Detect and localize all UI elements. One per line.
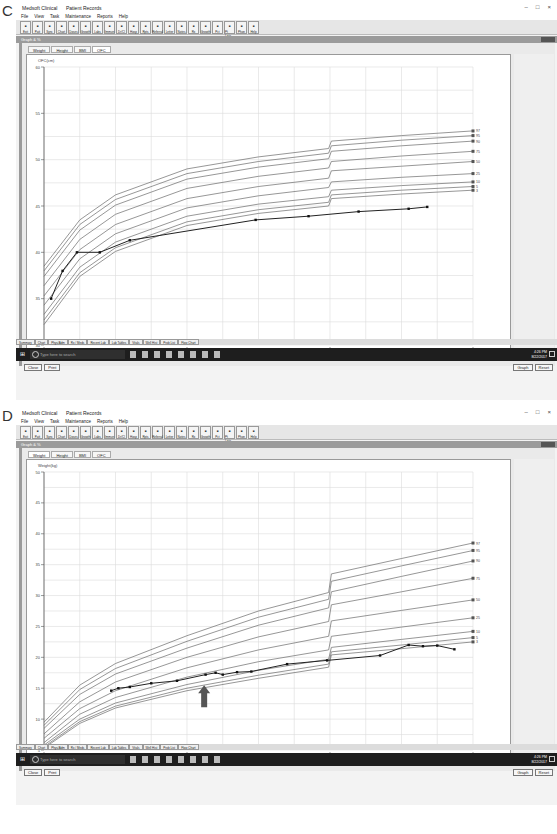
taskbar-search[interactable]: Type here to search bbox=[30, 350, 125, 359]
window-controls-icon[interactable] bbox=[541, 37, 555, 42]
button-reset[interactable]: Reset bbox=[535, 769, 553, 776]
tab-weight[interactable]: Weight bbox=[28, 46, 50, 53]
patient-data-point[interactable] bbox=[379, 654, 381, 656]
record-tab-vitals[interactable]: Vitals bbox=[129, 339, 142, 345]
maximize-icon[interactable]: □ bbox=[536, 409, 540, 415]
app-icon[interactable] bbox=[202, 756, 208, 763]
patient-data-point[interactable] bbox=[214, 672, 216, 674]
toolbar-button-labs[interactable]: ▪Labs bbox=[92, 21, 103, 34]
patient-data-point[interactable] bbox=[407, 208, 409, 210]
tab-ofc[interactable]: OFC bbox=[92, 46, 110, 53]
taskbar-search[interactable]: Type here to search bbox=[30, 755, 125, 764]
toolbar-button-phon[interactable]: ▪Phon bbox=[236, 426, 247, 439]
toolbar-button-pct[interactable]: ▪Pct bbox=[212, 21, 223, 34]
notifications-icon[interactable] bbox=[549, 351, 555, 357]
menu-item-task[interactable]: Task bbox=[50, 419, 59, 424]
toolbar-button-help[interactable]: ▪Help bbox=[248, 21, 259, 34]
app-icon[interactable] bbox=[202, 351, 208, 358]
menu-item-file[interactable]: File bbox=[21, 419, 28, 424]
toolbar-button-patt[interactable]: ▪Patt bbox=[32, 426, 43, 439]
toolbar-button-pct[interactable]: ▪Pct bbox=[212, 426, 223, 439]
menu-item-view[interactable]: View bbox=[34, 419, 44, 424]
record-tab-phys-adm[interactable]: Phys/Adm bbox=[48, 339, 68, 345]
record-tab-chart[interactable]: Chart bbox=[35, 339, 48, 345]
button-close[interactable]: Close bbox=[24, 769, 42, 776]
record-tab-recent-lab[interactable]: Recent Lab bbox=[87, 339, 108, 345]
patient-data-point[interactable] bbox=[236, 671, 238, 673]
store-icon[interactable] bbox=[166, 351, 172, 358]
patient-data-point[interactable] bbox=[357, 210, 359, 212]
toolbar-button-rx[interactable]: ▪Rx bbox=[188, 426, 199, 439]
close-icon[interactable]: × bbox=[547, 4, 551, 10]
record-tab-phys-adm[interactable]: Phys/Adm bbox=[48, 744, 68, 750]
record-tab-prob-list[interactable]: Prob List bbox=[160, 339, 178, 345]
patient-data-point[interactable] bbox=[99, 251, 101, 253]
record-tab-summary[interactable]: Summary bbox=[16, 744, 35, 750]
patient-data-point[interactable] bbox=[204, 673, 206, 675]
minimize-icon[interactable]: – bbox=[525, 409, 528, 415]
app-icon[interactable] bbox=[214, 351, 220, 358]
app-icon[interactable] bbox=[214, 756, 220, 763]
record-tab-flow-chart[interactable]: Flow Chart bbox=[178, 339, 199, 345]
patient-data-point[interactable] bbox=[250, 670, 252, 672]
record-tab-summary[interactable]: Summary bbox=[16, 339, 35, 345]
record-tab-well-hist[interactable]: Well Hist bbox=[143, 744, 161, 750]
button-reset[interactable]: Reset bbox=[535, 364, 553, 371]
file-explorer-icon[interactable] bbox=[142, 351, 148, 358]
patient-data-point[interactable] bbox=[222, 673, 224, 675]
toolbar-button-chart[interactable]: ▪Chart bbox=[56, 21, 67, 34]
toolbar-button-dr-cl[interactable]: ▪Dr/Cl bbox=[116, 426, 127, 439]
tab-height[interactable]: Height bbox=[51, 451, 73, 458]
toolbar-button-exit[interactable]: ▪Exit bbox=[20, 426, 31, 439]
file-explorer-icon[interactable] bbox=[142, 756, 148, 763]
toolbar-button-sync[interactable]: ▪Sync bbox=[44, 21, 55, 34]
mail-icon[interactable] bbox=[178, 756, 184, 763]
mail-icon[interactable] bbox=[178, 351, 184, 358]
maximize-icon[interactable]: □ bbox=[536, 4, 540, 10]
toolbar-button-exit[interactable]: ▪Exit bbox=[20, 21, 31, 34]
toolbar-button-patt[interactable]: ▪Patt bbox=[32, 21, 43, 34]
menu-item-reports[interactable]: Reports bbox=[97, 14, 113, 19]
toolbar-button-rx[interactable]: ▪Rx bbox=[188, 21, 199, 34]
toolbar-button-hosp[interactable]: ▪Hosp bbox=[128, 426, 139, 439]
record-tab-lab-tables[interactable]: Lab Tables bbox=[109, 339, 129, 345]
record-tab-flow-chart[interactable]: Flow Chart bbox=[178, 744, 199, 750]
patient-data-point[interactable] bbox=[326, 659, 328, 661]
menu-item-help[interactable]: Help bbox=[119, 14, 128, 19]
patient-data-point[interactable] bbox=[307, 215, 309, 217]
patient-data-point[interactable] bbox=[129, 686, 131, 688]
toolbar-button-immun[interactable]: ▪Immun bbox=[104, 426, 115, 439]
patient-data-point[interactable] bbox=[254, 219, 256, 221]
app-icon[interactable] bbox=[190, 351, 196, 358]
minimize-icon[interactable]: – bbox=[525, 4, 528, 10]
windows-start-icon[interactable]: ⊞ bbox=[20, 756, 26, 762]
system-clock[interactable]: 4:26 PM 8/22/2017 bbox=[531, 350, 547, 359]
toolbar-button-referral[interactable]: ▪Referral bbox=[152, 426, 163, 439]
button-print[interactable]: Print bbox=[44, 769, 60, 776]
menu-item-reports[interactable]: Reports bbox=[97, 419, 113, 424]
toolbar-button-growth[interactable]: ▪Growth bbox=[200, 426, 211, 439]
toolbar-button-letter[interactable]: ▪Letter bbox=[164, 21, 175, 34]
window-controls-icon[interactable] bbox=[541, 442, 555, 447]
toolbar-button-growth[interactable]: ▪Growth bbox=[200, 21, 211, 34]
patient-data-point[interactable] bbox=[129, 239, 131, 241]
tab-bmi[interactable]: BMI bbox=[74, 46, 91, 53]
patient-data-point[interactable] bbox=[150, 682, 152, 684]
toolbar-button-hosp[interactable]: ▪Hosp bbox=[128, 21, 139, 34]
record-tab-rx-meds[interactable]: Rx / Meds bbox=[68, 339, 88, 345]
toolbar-button-doses[interactable]: ▪Doses bbox=[68, 21, 79, 34]
toolbar-button-referral[interactable]: ▪Referral bbox=[152, 21, 163, 34]
toolbar-button-notes[interactable]: ▪Notes bbox=[176, 426, 187, 439]
notifications-icon[interactable] bbox=[549, 756, 555, 762]
menu-item-maintenance[interactable]: Maintenance bbox=[65, 14, 91, 19]
record-tab-rx-meds[interactable]: Rx / Meds bbox=[68, 744, 88, 750]
toolbar-button-letter[interactable]: ▪Letter bbox=[164, 426, 175, 439]
store-icon[interactable] bbox=[166, 756, 172, 763]
toolbar-button-doses[interactable]: ▪Doses bbox=[68, 426, 79, 439]
menu-item-task[interactable]: Task bbox=[50, 14, 59, 19]
menu-item-file[interactable]: File bbox=[21, 14, 28, 19]
patient-data-point[interactable] bbox=[61, 270, 63, 272]
patient-data-point[interactable] bbox=[176, 680, 178, 682]
button-close[interactable]: Close bbox=[24, 364, 42, 371]
browser-icon[interactable] bbox=[154, 351, 160, 358]
